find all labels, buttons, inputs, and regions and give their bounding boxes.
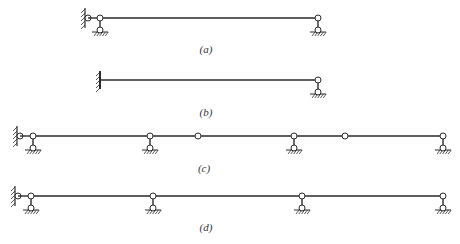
internal-hinge-icon	[195, 133, 201, 139]
beam-diagram-b	[96, 71, 326, 98]
beam-diagram-a	[81, 8, 326, 36]
beam-diagram-c	[13, 126, 451, 154]
internal-hinge-icon	[342, 133, 348, 139]
beam-diagram-d	[11, 186, 451, 214]
diagram-label-a: (a)	[200, 43, 213, 55]
diagram-label-c: (c)	[198, 162, 210, 174]
diagram-label-b: (b)	[200, 106, 213, 118]
beam-diagrams-canvas	[0, 0, 460, 244]
diagram-label-d: (d)	[200, 221, 213, 233]
fixed-wall-icon	[96, 71, 100, 92]
